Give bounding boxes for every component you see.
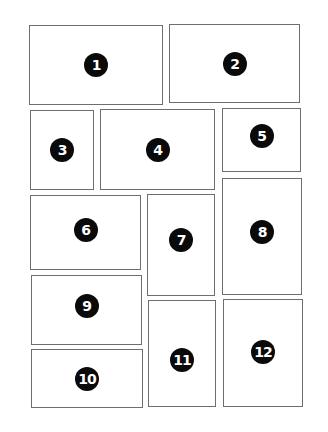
number-badge: 9 <box>75 294 99 318</box>
panel-9: 9 <box>31 275 142 345</box>
number-badge: 12 <box>251 340 275 364</box>
panel-10: 10 <box>31 349 143 408</box>
panel-1: 1 <box>29 25 163 105</box>
number-badge: 10 <box>75 367 99 391</box>
number-badge: 7 <box>169 228 193 252</box>
panel-7: 7 <box>147 194 215 296</box>
panel-6: 6 <box>30 195 141 270</box>
panel-5: 5 <box>222 108 301 172</box>
panel-8: 8 <box>222 178 302 295</box>
number-badge: 1 <box>84 53 108 77</box>
panel-3: 3 <box>30 110 94 190</box>
panel-4: 4 <box>100 109 215 190</box>
panel-12: 12 <box>223 299 303 407</box>
panel-11: 11 <box>148 300 216 407</box>
number-badge: 4 <box>146 138 170 162</box>
number-badge: 2 <box>223 52 247 76</box>
number-badge: 11 <box>170 348 194 372</box>
number-badge: 8 <box>250 220 274 244</box>
number-badge: 3 <box>50 138 74 162</box>
panel-2: 2 <box>169 24 300 103</box>
number-badge: 5 <box>250 124 274 148</box>
number-badge: 6 <box>74 218 98 242</box>
